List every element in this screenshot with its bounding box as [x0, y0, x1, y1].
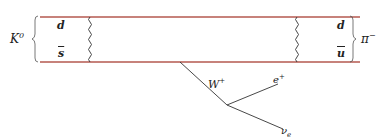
positron-line	[227, 84, 278, 105]
quark-sbar-in: s	[58, 48, 64, 59]
brace-right	[350, 16, 356, 62]
positron-label: e+	[273, 74, 285, 85]
neutrino-label: νe	[281, 126, 291, 139]
neutrino-line	[227, 105, 283, 129]
k0-label: K0	[10, 32, 24, 45]
quark-d-out: d	[337, 20, 345, 31]
gluon-left	[89, 17, 92, 62]
w-plus-label: W+	[208, 78, 225, 90]
quark-ubar-out: u	[337, 48, 345, 59]
quark-d-in: d	[57, 20, 65, 31]
brace-left	[32, 16, 38, 62]
pi-minus-label: π−	[361, 32, 376, 45]
gluon-right	[296, 17, 299, 62]
